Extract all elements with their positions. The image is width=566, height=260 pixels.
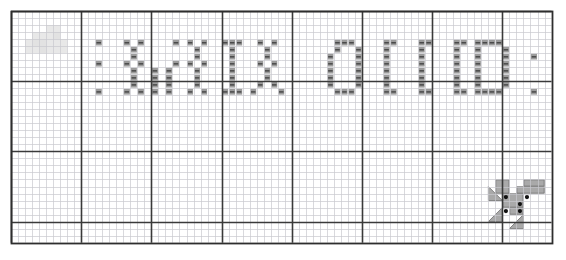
cross-stitch-chart-canvas bbox=[0, 0, 566, 260]
pattern-chart-stage: Cross Stitch Pattern Chart faint-grey-bl… bbox=[0, 0, 566, 260]
